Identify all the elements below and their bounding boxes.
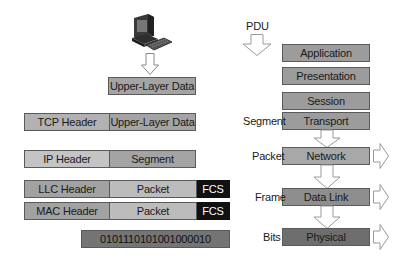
llc-header-cell: LLC Header <box>24 180 110 198</box>
right-arrow-icon <box>373 143 389 169</box>
packet-cell: Packet <box>110 180 197 198</box>
mac-header-cell: MAC Header <box>24 202 110 220</box>
layer-application: Application <box>282 44 370 62</box>
down-arrow-icon <box>141 53 159 75</box>
pdu-down-arrow-icon <box>242 34 272 56</box>
layer-network: Network <box>282 147 370 165</box>
down-arrow-icon <box>313 165 341 189</box>
tcp-header-cell: TCP Header <box>24 113 110 131</box>
ip-packet-row: IP Header Segment <box>24 150 196 168</box>
bits-stream-box: 0101110101001000010 <box>81 230 230 248</box>
upper-layer-data-cell: Upper-Layer Data <box>110 113 196 131</box>
ip-header-cell: IP Header <box>24 150 110 168</box>
pdu-label-packet: Packet <box>252 150 284 162</box>
down-arrow-icon <box>313 206 341 229</box>
llc-frame-row: LLC Header Packet FCS <box>24 180 230 198</box>
mac-frame-row: MAC Header Packet FCS <box>24 202 230 220</box>
layer-transport: Transport <box>282 112 370 130</box>
tcp-segment-row: TCP Header Upper-Layer Data <box>24 113 196 131</box>
segment-cell: Segment <box>110 150 196 168</box>
down-arrow-icon <box>313 130 341 148</box>
upper-layer-data-box: Upper-Layer Data <box>108 77 196 95</box>
packet-cell: Packet <box>110 202 197 220</box>
right-arrow-icon <box>373 184 389 210</box>
pdu-label-bits: Bits <box>263 231 281 243</box>
pdu-label-segment: Segment <box>243 115 286 127</box>
computer-icon <box>128 14 174 52</box>
pdu-label: PDU <box>246 20 269 32</box>
layer-data-link: Data Link <box>282 188 370 206</box>
fcs-cell: FCS <box>197 180 230 198</box>
layer-session: Session <box>282 92 370 110</box>
right-arrow-icon <box>373 224 389 250</box>
pdu-label-frame: Frame <box>255 191 286 203</box>
layer-physical: Physical <box>282 228 370 246</box>
fcs-cell: FCS <box>197 202 230 220</box>
layer-presentation: Presentation <box>282 67 370 85</box>
